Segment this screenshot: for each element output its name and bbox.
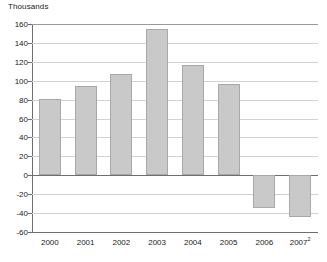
- plot-area: [32, 24, 318, 232]
- y-axis-label: 160: [4, 20, 28, 29]
- y-axis-label: 100: [4, 76, 28, 85]
- chart-axis-unit-title: Thousands: [8, 2, 48, 11]
- y-axis-label: 0: [4, 171, 28, 180]
- bar-2000: [39, 99, 61, 176]
- y-tick-mark: [28, 43, 32, 44]
- x-axis-label-2006: 2006: [247, 238, 283, 247]
- gridline-100: [32, 81, 318, 82]
- y-tick-mark: [28, 213, 32, 214]
- gridline-140: [32, 43, 318, 44]
- x-axis-label-footnote: 2: [307, 236, 310, 242]
- bar-2006: [253, 175, 275, 208]
- y-axis-label: 80: [4, 95, 28, 104]
- y-axis-label: -40: [4, 209, 28, 218]
- bar-2002: [110, 74, 132, 175]
- y-axis-label: 140: [4, 38, 28, 47]
- y-axis-label: 60: [4, 114, 28, 123]
- y-tick-mark: [28, 100, 32, 101]
- y-axis-label: -20: [4, 190, 28, 199]
- gridline-160: [32, 24, 318, 25]
- bar-chart: Thousands 160140120100806040200-20-40-60…: [0, 0, 327, 262]
- y-tick-mark: [28, 232, 32, 233]
- gridline--60: [32, 232, 318, 233]
- x-axis-label-2007: 20072: [282, 238, 318, 247]
- y-tick-mark: [28, 62, 32, 63]
- x-axis-label-2003: 2003: [139, 238, 175, 247]
- bar-2003: [146, 29, 168, 176]
- x-axis-label-2001: 2001: [68, 238, 104, 247]
- gridline--40: [32, 213, 318, 214]
- y-tick-mark: [28, 119, 32, 120]
- y-tick-mark: [28, 137, 32, 138]
- x-axis-label-2004: 2004: [175, 238, 211, 247]
- gridline-120: [32, 62, 318, 63]
- y-tick-mark: [28, 81, 32, 82]
- bar-2007: [289, 175, 311, 217]
- x-axis-label-2005: 2005: [211, 238, 247, 247]
- bar-2005: [218, 84, 240, 176]
- y-tick-mark: [28, 194, 32, 195]
- y-tick-mark: [28, 156, 32, 157]
- y-tick-mark: [28, 24, 32, 25]
- bar-2004: [182, 65, 204, 176]
- y-axis-label: 120: [4, 57, 28, 66]
- y-axis-label: -60: [4, 228, 28, 237]
- y-axis-label: 40: [4, 133, 28, 142]
- bar-2001: [75, 86, 97, 175]
- x-axis-label-2002: 2002: [104, 238, 140, 247]
- x-axis-label-2000: 2000: [32, 238, 68, 247]
- y-tick-mark: [28, 175, 32, 176]
- y-axis-label: 20: [4, 152, 28, 161]
